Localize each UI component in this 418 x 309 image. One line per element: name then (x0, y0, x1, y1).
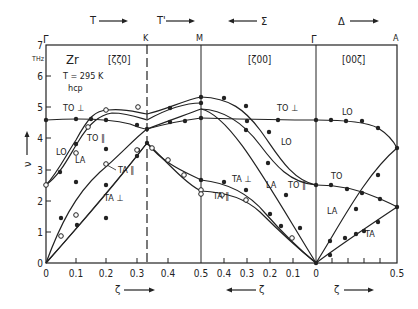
svg-text:0.1: 0.1 (69, 268, 83, 279)
svg-text:2: 2 (37, 196, 43, 207)
svg-text:4: 4 (37, 133, 43, 144)
svg-text:0.1: 0.1 (286, 268, 300, 279)
x-tick-labels: 0 0.1 0.2 0.3 0.4 0.5 0.4 0.3 0.2 0.1 0 … (43, 268, 404, 279)
y-unit: THz (31, 55, 45, 63)
temperature-label: T = 295 K (62, 71, 104, 81)
point-gamma-2: Γ (311, 33, 317, 46)
symmetry-points: Γ K M Γ A (43, 33, 399, 46)
svg-text:7: 7 (37, 40, 43, 51)
label-TO-perp-2: TO ⊥ (276, 103, 298, 113)
svg-text:0.2: 0.2 (99, 268, 113, 279)
svg-text:0: 0 (43, 268, 49, 279)
svg-text:0.4: 0.4 (217, 268, 232, 279)
point-gamma-1: Γ (43, 33, 49, 46)
label-TA-3: TA (364, 229, 375, 239)
point-A: A (393, 33, 399, 43)
direction-T-prime: T' (156, 14, 166, 27)
point-M: M (196, 33, 203, 43)
label-LA-1: LA (75, 155, 86, 165)
y-axis-label: ν (21, 131, 34, 167)
direction-labels: T T' Σ Δ (89, 14, 379, 28)
svg-text:ζ: ζ (334, 283, 339, 296)
svg-text:0.3: 0.3 (240, 268, 254, 279)
direction-delta: Δ (338, 15, 345, 28)
label-TA-perp-1: TA ⊥ (103, 193, 123, 203)
svg-text:0.2: 0.2 (263, 268, 277, 279)
structure-label: hcp (68, 83, 83, 93)
x-axis-labels: ζ ζ ζ (115, 283, 374, 296)
svg-text:0.3: 0.3 (130, 268, 144, 279)
point-K: K (143, 33, 149, 43)
label-leader-line (107, 165, 116, 170)
svg-text:6: 6 (37, 71, 43, 82)
y-tick-labels: 0 1 2 3 4 5 6 7 THz (31, 40, 45, 269)
label-LO-2: LO (281, 137, 292, 147)
svg-text:[00ζ]: [00ζ] (342, 54, 365, 65)
svg-text:[ζ00]: [ζ00] (248, 54, 271, 65)
label-LO-3: LO (342, 107, 353, 117)
label-TA-par-2: TA ∥ (212, 191, 229, 201)
label-TA-par-1: TA ∥ (117, 165, 134, 175)
svg-text:0.5: 0.5 (194, 268, 208, 279)
label-TA-perp-2: TA ⊥ (231, 174, 251, 184)
direction-sigma: Σ (261, 15, 267, 28)
svg-text:[ζζ0]: [ζζ0] (108, 54, 131, 65)
svg-text:ζ: ζ (259, 283, 264, 296)
label-LO-1: LO (56, 147, 67, 157)
measured-points-filled (44, 95, 399, 265)
label-LA-2: LA (266, 180, 277, 190)
y-ticks (46, 76, 51, 232)
phonon-dispersion-chart: T T' Σ Δ Γ K M Γ A 0 1 2 3 4 5 6 7 THz (0, 0, 418, 309)
direction-T: T (89, 14, 97, 27)
x-ticks (76, 258, 380, 263)
svg-text:1: 1 (37, 227, 43, 238)
svg-text:0: 0 (313, 268, 319, 279)
label-TO-par-1: TO ∥ (86, 133, 105, 143)
svg-text:0.4: 0.4 (161, 268, 176, 279)
svg-text:ν: ν (21, 161, 34, 167)
svg-text:0.5: 0.5 (390, 268, 404, 279)
label-TO-perp-1: TO ⊥ (62, 103, 84, 113)
label-TO-par-2: TO ∥ (287, 180, 306, 190)
label-TO-3: TO (330, 171, 342, 181)
label-LA-3: LA (327, 206, 338, 216)
svg-text:5: 5 (37, 102, 43, 113)
svg-text:3: 3 (37, 165, 43, 176)
material-label: Zr (66, 52, 79, 67)
panel-labels: [ζζ0] [ζ00] [00ζ] Zr T = 295 K hcp (62, 52, 365, 93)
svg-text:ζ: ζ (115, 283, 120, 296)
